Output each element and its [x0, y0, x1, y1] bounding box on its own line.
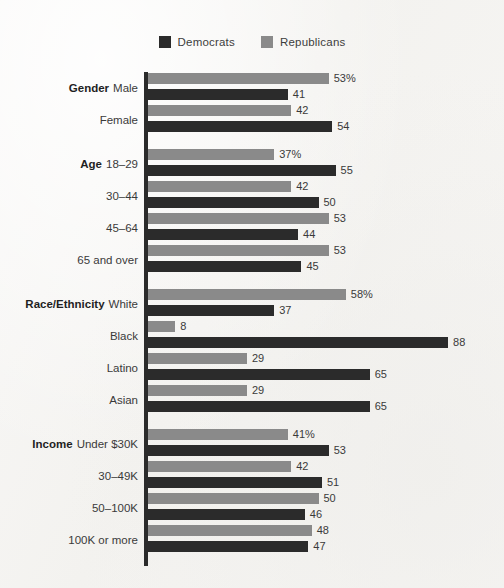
bar-democrat[interactable]: [148, 229, 298, 240]
legend-label-rep: Republicans: [280, 36, 346, 48]
bar-group-gender: 53%GenderMale4142Female54: [0, 72, 504, 134]
bar-democrat[interactable]: [148, 197, 319, 208]
grouped-bar-chart: DemocratsRepublicans 53%GenderMale4142Fe…: [0, 0, 504, 588]
bar-value-democrat: 54: [337, 120, 349, 133]
bar-democrat[interactable]: [148, 337, 448, 348]
bar-value-republican: 29: [252, 352, 264, 365]
bar-value-democrat: 47: [313, 540, 325, 553]
bar-value-democrat: 45: [306, 260, 318, 273]
bar-republican[interactable]: [148, 493, 319, 504]
bar-value-republican: 53: [334, 212, 346, 225]
bar-democrat[interactable]: [148, 445, 329, 456]
bar-row-democrat: 53: [0, 444, 504, 458]
bar-group-age: 37%Age18–29554230–44505345–64445365 and …: [0, 148, 504, 274]
bar-value-democrat: 65: [375, 368, 387, 381]
bar-value-republican: 42: [296, 460, 308, 473]
bar-republican[interactable]: [148, 429, 288, 440]
bar-value-republican: 58%: [351, 288, 373, 301]
bar-row-democrat: 88: [0, 336, 504, 350]
bar-republican[interactable]: [148, 213, 329, 224]
bar-row-democrat: 65: [0, 400, 504, 414]
bar-row-democrat: 54: [0, 120, 504, 134]
bar-republican[interactable]: [148, 105, 291, 116]
legend-item-dem[interactable]: Democrats: [159, 36, 235, 48]
bar-value-democrat: 51: [327, 476, 339, 489]
bar-republican[interactable]: [148, 321, 175, 332]
bar-republican[interactable]: [148, 525, 312, 536]
bar-row-democrat: 50: [0, 196, 504, 210]
legend-swatch-dem: [159, 36, 171, 48]
bar-value-democrat: 46: [310, 508, 322, 521]
bar-group-race-ethnicity: 58%Race/EthnicityWhite378Black8829Latino…: [0, 288, 504, 414]
bar-value-democrat: 41: [293, 88, 305, 101]
bar-value-republican: 42: [296, 104, 308, 117]
bar-value-democrat: 44: [303, 228, 315, 241]
bar-group-income: 41%IncomeUnder $30K534230–49K515050–100K…: [0, 428, 504, 554]
bar-row-democrat: 45: [0, 260, 504, 274]
bar-democrat[interactable]: [148, 305, 274, 316]
bar-value-republican: 42: [296, 180, 308, 193]
bar-republican[interactable]: [148, 289, 346, 300]
bar-value-republican: 8: [180, 320, 186, 333]
bar-democrat[interactable]: [148, 369, 370, 380]
bar-democrat[interactable]: [148, 165, 336, 176]
bar-republican[interactable]: [148, 385, 247, 396]
bar-row-democrat: 46: [0, 508, 504, 522]
bar-republican[interactable]: [148, 149, 274, 160]
bar-value-republican: 53: [334, 244, 346, 257]
legend-item-rep[interactable]: Republicans: [261, 36, 346, 48]
bar-row-democrat: 44: [0, 228, 504, 242]
legend-label-dem: Democrats: [178, 36, 235, 48]
bar-value-democrat: 88: [453, 336, 465, 349]
bar-value-republican: 53%: [334, 72, 356, 85]
bar-value-republican: 41%: [293, 428, 315, 441]
chart-legend: DemocratsRepublicans: [0, 36, 504, 48]
bar-value-democrat: 65: [375, 400, 387, 413]
bar-republican[interactable]: [148, 353, 247, 364]
bar-republican[interactable]: [148, 73, 329, 84]
bar-groups-container: 53%GenderMale4142Female5437%Age18–295542…: [0, 72, 504, 554]
bar-republican[interactable]: [148, 461, 291, 472]
bar-democrat[interactable]: [148, 509, 305, 520]
bar-value-democrat: 50: [324, 196, 336, 209]
legend-swatch-rep: [261, 36, 273, 48]
bar-democrat[interactable]: [148, 89, 288, 100]
bar-democrat[interactable]: [148, 541, 308, 552]
bar-value-republican: 50: [324, 492, 336, 505]
bar-row-democrat: 55: [0, 164, 504, 178]
bar-democrat[interactable]: [148, 261, 301, 272]
bar-row-democrat: 41: [0, 88, 504, 102]
bar-row-democrat: 47: [0, 540, 504, 554]
bar-value-republican: 29: [252, 384, 264, 397]
bar-value-republican: 48: [317, 524, 329, 537]
bar-value-democrat: 55: [341, 164, 353, 177]
bar-democrat[interactable]: [148, 401, 370, 412]
bar-row-democrat: 51: [0, 476, 504, 490]
bar-value-republican: 37%: [279, 148, 301, 161]
bar-value-democrat: 37: [279, 304, 291, 317]
bar-row-democrat: 65: [0, 368, 504, 382]
bar-republican[interactable]: [148, 181, 291, 192]
bar-row-democrat: 37: [0, 304, 504, 318]
bar-democrat[interactable]: [148, 477, 322, 488]
bar-value-democrat: 53: [334, 444, 346, 457]
bar-democrat[interactable]: [148, 121, 332, 132]
bar-republican[interactable]: [148, 245, 329, 256]
